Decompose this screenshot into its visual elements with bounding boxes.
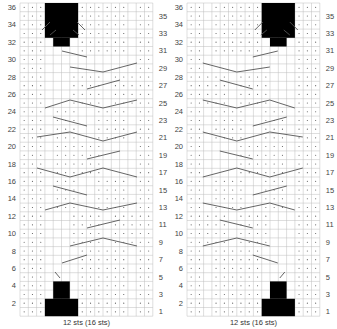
row-label: 26 bbox=[8, 90, 16, 99]
chart-grid-right: 2468101214161820222426283032343613579111… bbox=[167, 0, 337, 329]
row-label: 17 bbox=[159, 168, 167, 177]
row-label: 13 bbox=[159, 203, 167, 212]
row-label: 33 bbox=[326, 29, 334, 38]
row-label: 36 bbox=[8, 3, 16, 12]
row-label: 22 bbox=[175, 125, 183, 134]
row-label: 33 bbox=[159, 29, 167, 38]
row-label: 35 bbox=[159, 12, 167, 21]
row-label: 18 bbox=[8, 160, 16, 169]
row-label: 27 bbox=[326, 81, 334, 90]
row-label: 29 bbox=[326, 64, 334, 73]
row-label: 7 bbox=[159, 255, 163, 264]
row-label: 11 bbox=[159, 220, 167, 229]
knitting-chart-left: 2468101214161820222426283032343613579111… bbox=[0, 0, 168, 329]
row-label: 9 bbox=[159, 238, 163, 247]
row-label: 21 bbox=[159, 133, 167, 142]
row-label: 14 bbox=[175, 194, 183, 203]
row-label: 25 bbox=[326, 99, 334, 108]
row-label: 6 bbox=[12, 264, 16, 273]
row-label: 24 bbox=[8, 107, 16, 116]
row-label: 9 bbox=[326, 238, 330, 247]
row-label: 34 bbox=[175, 20, 183, 29]
row-label: 36 bbox=[175, 3, 183, 12]
row-label: 28 bbox=[175, 73, 183, 82]
row-label: 22 bbox=[8, 125, 16, 134]
row-label: 30 bbox=[8, 55, 16, 64]
row-label: 34 bbox=[8, 20, 16, 29]
row-label: 8 bbox=[12, 247, 16, 256]
row-label: 12 bbox=[175, 212, 183, 221]
row-label: 20 bbox=[8, 142, 16, 151]
row-label: 31 bbox=[326, 46, 334, 55]
row-label: 32 bbox=[175, 38, 183, 47]
row-label: 10 bbox=[175, 229, 183, 238]
row-label: 10 bbox=[8, 229, 16, 238]
chart-caption-right: 12 sts (16 sts) bbox=[187, 318, 320, 327]
row-label: 32 bbox=[8, 38, 16, 47]
row-label: 16 bbox=[8, 177, 16, 186]
row-label: 4 bbox=[12, 281, 16, 290]
row-label: 4 bbox=[179, 281, 183, 290]
row-label: 23 bbox=[159, 116, 167, 125]
row-label: 2 bbox=[179, 299, 183, 308]
row-label: 19 bbox=[326, 151, 334, 160]
row-label: 15 bbox=[159, 186, 167, 195]
row-label: 27 bbox=[159, 81, 167, 90]
row-label: 1 bbox=[326, 307, 330, 316]
row-label: 35 bbox=[326, 12, 334, 21]
row-label: 21 bbox=[326, 133, 334, 142]
row-label: 28 bbox=[8, 73, 16, 82]
row-label: 5 bbox=[326, 273, 330, 282]
chart-grid-left: 2468101214161820222426283032343613579111… bbox=[0, 0, 168, 329]
row-label: 6 bbox=[179, 264, 183, 273]
row-label: 3 bbox=[326, 290, 330, 299]
row-label: 14 bbox=[8, 194, 16, 203]
row-label: 29 bbox=[159, 64, 167, 73]
knitting-chart-right: 2468101214161820222426283032343613579111… bbox=[167, 0, 337, 329]
row-label: 17 bbox=[326, 168, 334, 177]
row-label: 19 bbox=[159, 151, 167, 160]
row-label: 3 bbox=[159, 290, 163, 299]
row-label: 25 bbox=[159, 99, 167, 108]
row-label: 12 bbox=[8, 212, 16, 221]
chart-caption-left: 12 sts (16 sts) bbox=[20, 318, 153, 327]
row-label: 18 bbox=[175, 160, 183, 169]
row-label: 20 bbox=[175, 142, 183, 151]
row-label: 26 bbox=[175, 90, 183, 99]
row-label: 30 bbox=[175, 55, 183, 64]
row-label: 15 bbox=[326, 186, 334, 195]
row-label: 23 bbox=[326, 116, 334, 125]
row-label: 31 bbox=[159, 46, 167, 55]
row-label: 13 bbox=[326, 203, 334, 212]
row-label: 2 bbox=[12, 299, 16, 308]
row-label: 1 bbox=[159, 307, 163, 316]
row-label: 7 bbox=[326, 255, 330, 264]
row-label: 11 bbox=[326, 220, 334, 229]
row-label: 24 bbox=[175, 107, 183, 116]
row-label: 5 bbox=[159, 273, 163, 282]
row-label: 16 bbox=[175, 177, 183, 186]
row-label: 8 bbox=[179, 247, 183, 256]
